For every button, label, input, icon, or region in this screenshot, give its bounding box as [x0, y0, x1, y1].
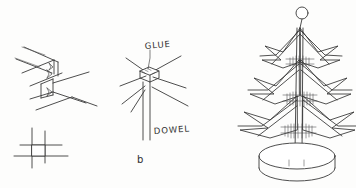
tree-base — [259, 143, 335, 181]
panel-b-glue-dowel: GLUE DOWEL b — [120, 39, 190, 165]
dowel-label: DOWEL — [153, 123, 190, 136]
notch-plan-view — [14, 128, 68, 168]
panel-b-caption: b — [137, 154, 143, 165]
notch-lower — [47, 70, 52, 78]
glue-leader-line — [148, 50, 150, 69]
panel-c-tree — [238, 7, 356, 181]
tree-tier-3 — [238, 96, 356, 138]
panel-a-notch-joint — [14, 47, 97, 168]
tree-collar-3 — [281, 124, 316, 138]
notch-third — [47, 88, 52, 96]
figure-canvas: GLUE DOWEL b — [0, 0, 356, 188]
glue-label: GLUE — [144, 39, 171, 51]
tree-finial-ball — [296, 7, 308, 19]
notch-upper — [49, 63, 53, 70]
figure-svg: GLUE DOWEL b — [0, 0, 356, 188]
